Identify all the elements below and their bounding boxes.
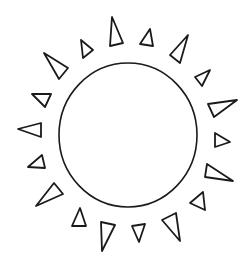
sun-ray-triangle [32,94,51,107]
sun-ray-triangle [28,155,45,168]
sun-ray-triangle [81,40,93,58]
sun-ray-triangle [170,35,188,63]
sun-ray-triangle [140,29,153,46]
sun-ray-triangle [110,17,123,46]
sun-ray-triangle [208,100,237,117]
sun-ray-triangle [18,123,41,137]
sun-rays [18,17,237,251]
sun-ray-triangle [101,222,115,251]
sun-drawing [0,0,251,262]
sun-ray-triangle [36,183,63,206]
sun-circle [59,63,197,207]
sun-ray-triangle [162,213,180,241]
sun-ray-triangle [190,192,205,210]
sun-ray-triangle [205,164,233,181]
sun-ray-triangle [215,133,230,147]
sun-ray-triangle [72,208,86,226]
sun-ray-triangle [195,70,210,86]
sun-ray-triangle [44,53,68,79]
sun-ray-triangle [132,224,145,242]
